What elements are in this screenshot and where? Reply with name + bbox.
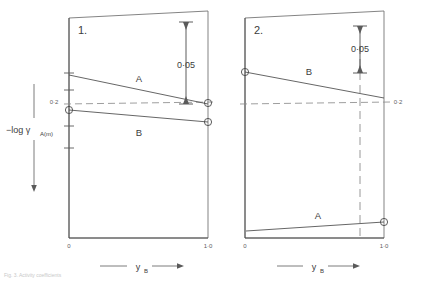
panel-1: 1. 0·2 A B 0·05: [50, 11, 213, 274]
panel-1-number: 1.: [78, 24, 87, 36]
y-axis-arrow-down-head: [31, 185, 37, 192]
panel-1-x-axis-arrow-right-head: [177, 263, 184, 269]
panel-1-curve-b: [69, 110, 208, 122]
panel-2-x-axis-label-sub: B: [320, 268, 324, 274]
panel-1-x-axis-label-main: y: [136, 262, 141, 272]
panel-1-curve-b-label: B: [136, 127, 142, 138]
panel-2-number: 2.: [254, 24, 263, 36]
panel-2: 2. 0·2 B A 0·05 0 1·0: [240, 11, 403, 274]
panel-2-x-tick-label-1: 1·0: [380, 243, 389, 249]
figure-svg: 1. 0·2 A B 0·05: [0, 0, 427, 282]
panel-2-x-axis-label-group: y B: [277, 262, 360, 274]
caption-group: Fig. 3. Activity coefficients: [4, 272, 62, 278]
caption-text: Fig. 3. Activity coefficients: [4, 272, 62, 278]
panel-2-curve-b: [245, 72, 384, 98]
panel-1-curve-a-label: A: [136, 73, 143, 84]
panel-2-reference-line: [240, 102, 392, 104]
panel-2-x-axis-label-main: y: [312, 262, 317, 272]
panel-1-x-axis-label-group: y B: [100, 262, 184, 274]
panel-1-x-axis-label-sub: B: [144, 268, 148, 274]
panel-2-x-tick-label-0: 0: [243, 243, 247, 249]
y-axis-label-sub: A(m): [40, 131, 53, 137]
panel-1-x-tick-label-0: 0: [67, 243, 71, 249]
panel-1-y-tick-label: 0·2: [50, 99, 59, 105]
y-axis-label-main: −log γ: [6, 125, 31, 135]
panel-2-error-bar-arrow-top: [357, 26, 363, 34]
panel-2-curve-b-label: B: [306, 66, 312, 77]
panel-1-error-bar-label: 0·05: [177, 60, 195, 70]
panel-2-y-tick-label: 0·2: [394, 99, 403, 105]
panel-1-frame: [69, 11, 208, 238]
y-axis-label-group: −log γ A(m): [6, 84, 53, 192]
panel-1-x-tick-label-1: 1·0: [204, 243, 213, 249]
panel-1-error-bar-arrow-top: [183, 22, 189, 30]
panel-2-error-bar-label: 0·05: [351, 44, 369, 54]
panel-2-error-bar-arrow-bottom: [357, 65, 363, 73]
figure-root: 1. 0·2 A B 0·05: [0, 0, 427, 282]
panel-2-curve-a: [246, 222, 384, 231]
panel-2-x-axis-arrow-right-head: [353, 263, 360, 269]
panel-2-curve-a-label: A: [315, 210, 322, 221]
